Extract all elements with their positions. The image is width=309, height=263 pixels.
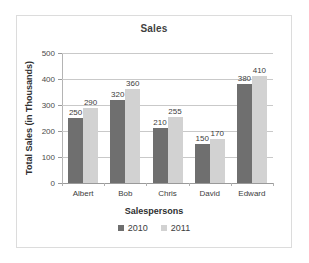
y-tick-label: 200 (42, 127, 55, 136)
bar-chris-2010[interactable] (153, 128, 168, 183)
x-tick-mark (104, 183, 105, 186)
bar-bob-2011[interactable] (125, 89, 140, 183)
bar-group (110, 53, 140, 183)
x-tick-mark (62, 183, 63, 186)
legend-label: 2010 (128, 223, 148, 233)
gridline-0 (62, 183, 273, 184)
y-tick-mark-500 (58, 53, 62, 54)
y-axis-title-label: Total Sales (in Thousands) (24, 61, 34, 175)
x-tick-label-edward: Edward (238, 189, 265, 198)
y-tick-mark-200 (58, 131, 62, 132)
legend-swatch-icon (118, 225, 124, 231)
y-tick-mark-100 (58, 157, 62, 158)
legend-item-2011[interactable]: 2011 (161, 223, 190, 233)
y-tick-label: 500 (42, 49, 55, 58)
legend-swatch-icon (161, 225, 167, 231)
legend-label: 2011 (171, 223, 190, 233)
y-tick-label: 0 (51, 179, 55, 188)
x-tick-mark (146, 183, 147, 186)
chart-title: Sales (17, 23, 291, 34)
bar-group (153, 53, 183, 183)
y-tick-mark-400 (58, 79, 62, 80)
plot-area: 5004003002001000250290Albert320360Bob210… (62, 53, 273, 183)
bar-albert-2010[interactable] (68, 118, 83, 183)
bar-chris-2011[interactable] (168, 117, 183, 183)
y-axis-line (62, 53, 63, 183)
bar-bob-2010[interactable] (110, 100, 125, 183)
chart-container: Sales Total Sales (in Thousands) 5004003… (16, 15, 292, 248)
bar-group (195, 53, 225, 183)
bar-group (237, 53, 267, 183)
x-tick-label-david: David (199, 189, 219, 198)
bar-david-2011[interactable] (210, 139, 225, 183)
x-tick-label-albert: Albert (73, 189, 94, 198)
y-axis-title: Total Sales (in Thousands) (22, 53, 36, 183)
y-tick-label: 300 (42, 101, 55, 110)
bar-albert-2011[interactable] (83, 108, 98, 183)
bar-david-2010[interactable] (195, 144, 210, 183)
x-tick-label-chris: Chris (158, 189, 177, 198)
x-axis-title: Salespersons (17, 206, 291, 216)
x-tick-mark (273, 183, 274, 186)
legend-item-2010[interactable]: 2010 (118, 223, 148, 233)
y-tick-label: 400 (42, 75, 55, 84)
bar-group (68, 53, 98, 183)
y-tick-label: 100 (42, 153, 55, 162)
y-tick-mark-300 (58, 105, 62, 106)
x-tick-mark (189, 183, 190, 186)
bar-edward-2011[interactable] (252, 76, 267, 183)
bar-edward-2010[interactable] (237, 84, 252, 183)
x-tick-label-bob: Bob (118, 189, 132, 198)
chart-legend: 20102011 (17, 223, 291, 233)
x-tick-mark (231, 183, 232, 186)
